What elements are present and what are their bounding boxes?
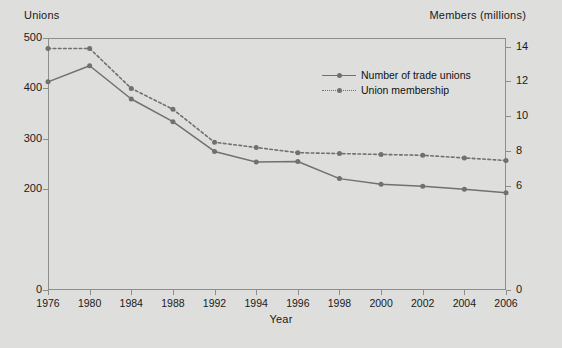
data-point-marker — [420, 184, 425, 189]
legend-item-trade-unions: Number of trade unions — [322, 68, 471, 83]
data-point-marker — [254, 159, 259, 164]
data-point-marker — [46, 46, 51, 51]
chart-figure: Unions Members (millions) Year 500400300… — [0, 0, 562, 348]
chart-legend: Number of trade unions Union membership — [322, 68, 471, 98]
data-point-marker — [129, 96, 134, 101]
data-point-marker — [170, 119, 175, 124]
data-point-marker — [379, 182, 384, 187]
legend-item-union-membership: Union membership — [322, 83, 471, 98]
data-point-marker — [420, 153, 425, 158]
data-point-marker — [379, 152, 384, 157]
data-point-marker — [337, 176, 342, 181]
data-point-marker — [87, 63, 92, 68]
data-point-marker — [462, 187, 467, 192]
legend-label-union-membership: Union membership — [361, 83, 449, 98]
data-point-marker — [212, 149, 217, 154]
legend-label-trade-unions: Number of trade unions — [361, 68, 471, 83]
legend-key-dotted-line-icon — [322, 86, 356, 96]
data-point-marker — [87, 46, 92, 51]
data-point-marker — [170, 107, 175, 112]
data-point-marker — [212, 140, 217, 145]
legend-key-solid-line-icon — [322, 71, 356, 81]
data-point-marker — [337, 151, 342, 156]
data-point-marker — [129, 86, 134, 91]
data-point-marker — [295, 150, 300, 155]
data-point-marker — [254, 145, 259, 150]
data-point-marker — [295, 159, 300, 164]
data-point-marker — [462, 155, 467, 160]
data-point-marker — [46, 79, 51, 84]
series-layer — [0, 0, 562, 348]
data-point-marker — [504, 158, 509, 163]
series-line-2 — [48, 48, 506, 160]
data-point-marker — [504, 190, 509, 195]
